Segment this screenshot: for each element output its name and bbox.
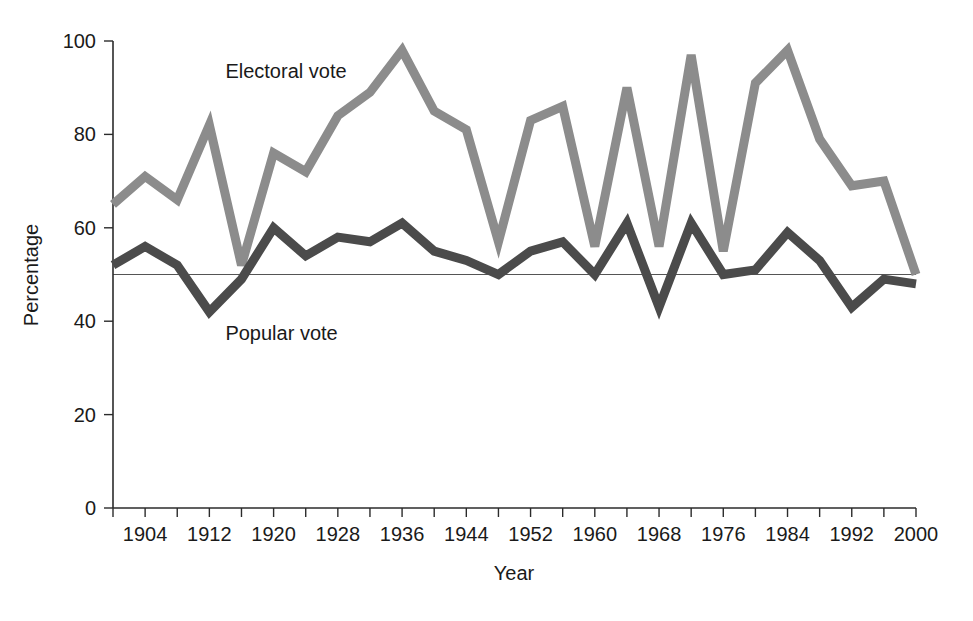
y-tick-label: 40 bbox=[74, 310, 96, 332]
x-tick-label: 1976 bbox=[701, 523, 746, 545]
x-tick-label: 1928 bbox=[316, 523, 361, 545]
electoral-vote-label: Electoral vote bbox=[225, 60, 346, 82]
popular-vote-label: Popular vote bbox=[225, 322, 337, 344]
y-tick-label: 0 bbox=[85, 497, 96, 519]
y-tick-label: 80 bbox=[74, 123, 96, 145]
x-tick-label: 1968 bbox=[637, 523, 682, 545]
x-tick-label: 1912 bbox=[187, 523, 232, 545]
x-axis-title: Year bbox=[494, 562, 535, 584]
chart-svg: 020406080100 190419121920192819361944195… bbox=[0, 0, 973, 621]
y-tick-label: 60 bbox=[74, 217, 96, 239]
x-tick-label: 1960 bbox=[573, 523, 618, 545]
x-tick-label: 1936 bbox=[380, 523, 425, 545]
y-axis-title: Percentage bbox=[20, 224, 42, 326]
x-tick-label: 1944 bbox=[444, 523, 489, 545]
x-tick-label: 2000 bbox=[894, 523, 939, 545]
y-tick-label: 100 bbox=[63, 30, 96, 52]
x-tick-label: 1904 bbox=[123, 523, 168, 545]
x-tick-label: 1992 bbox=[830, 523, 875, 545]
x-tick-label: 1920 bbox=[251, 523, 296, 545]
x-tick-label: 1952 bbox=[508, 523, 553, 545]
x-tick-label: 1984 bbox=[765, 523, 810, 545]
election-percentage-chart: 020406080100 190419121920192819361944195… bbox=[0, 0, 973, 621]
y-tick-label: 20 bbox=[74, 404, 96, 426]
